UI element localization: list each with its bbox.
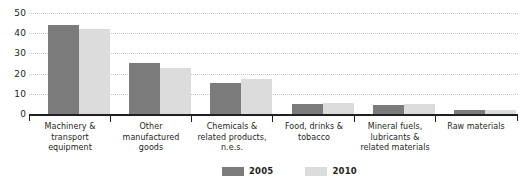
x-axis-left-cap: [29, 114, 30, 121]
legend: 2005 2010: [222, 166, 357, 176]
legend-item-2005: 2005: [222, 166, 273, 176]
bar-2005: [210, 83, 241, 114]
bar-2005: [48, 25, 79, 114]
y-tick-label: 50: [14, 9, 26, 18]
y-axis-labels: 50 40 30 20 10 0: [0, 0, 26, 114]
plot-area: [29, 13, 518, 114]
y-tick-label: 0: [20, 110, 26, 119]
y-tick-label: 30: [14, 49, 26, 58]
bar-2010: [241, 79, 272, 114]
bar-2010: [79, 29, 110, 114]
y-tick-label: 20: [14, 69, 26, 78]
bar-2005: [292, 104, 323, 114]
legend-swatch-icon: [222, 167, 244, 176]
bar-2005: [129, 63, 160, 115]
bar-chart: 50 40 30 20 10 0 Machinery &transportequ…: [0, 0, 525, 181]
x-axis-right-cap: [517, 114, 518, 121]
bar-2010: [323, 103, 354, 114]
category-label-0: Machinery &transportequipment: [27, 122, 113, 154]
category-label-5: Raw materials: [433, 122, 519, 133]
category-label-1: Othermanufacturedgoods: [108, 122, 194, 154]
bar-2005: [373, 105, 404, 114]
x-axis-line: [29, 114, 518, 116]
legend-label: 2010: [332, 166, 356, 176]
legend-item-2010: 2010: [305, 166, 356, 176]
category-label-4: Mineral fuels,lubricants &related materi…: [352, 122, 438, 154]
category-label-3: Food, drinks &tobacco: [271, 122, 357, 143]
category-label-2: Chemicals &related products,n.e.s.: [189, 122, 275, 154]
y-tick-label: 10: [14, 89, 26, 98]
y-tick-label: 40: [14, 29, 26, 38]
gridline-50: [29, 13, 518, 14]
legend-label: 2005: [249, 166, 273, 176]
bar-2010: [404, 104, 435, 114]
bar-2010: [160, 68, 191, 114]
legend-swatch-icon: [305, 167, 327, 176]
